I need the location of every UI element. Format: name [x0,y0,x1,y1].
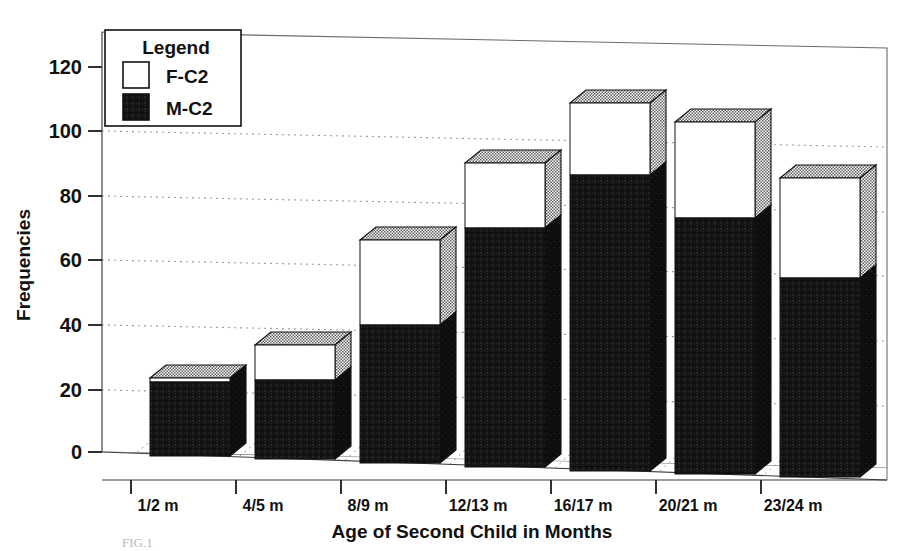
bar-7-male-front [780,278,860,477]
y-axis: 120 100 80 60 40 20 0 Frequencies [13,32,102,463]
legend-swatch-male[interactable] [123,94,149,120]
y-tick-label-60: 60 [60,249,82,271]
y-tick-label-100: 100 [49,120,82,142]
bar-1-female-front [150,378,230,382]
y-tick-label-0: 0 [71,441,82,463]
figure-container: 120 100 80 60 40 20 0 Frequencies [0,0,913,551]
legend[interactable]: Legend F-C2 M-C2 [105,30,241,126]
x-axis-title: Age of Second Child in Months [332,521,613,542]
bar-group-3[interactable] [360,227,456,463]
bar-2-female-front [255,345,335,380]
bar-6-female-front [675,122,755,218]
bar-3-side-face-female [440,227,456,325]
bar-chart-3d: 120 100 80 60 40 20 0 Frequencies [0,0,913,551]
x-tick-label-3: 8/9 m [348,497,389,514]
y-tick-label-80: 80 [60,185,82,207]
x-tick-label-5: 16/17 m [554,497,613,514]
y-tick-label-120: 120 [49,56,82,78]
bar-5-female-front [570,103,650,175]
bar-2-male-front [255,380,335,459]
x-tick-label-7: 23/24 m [764,497,823,514]
bar-group-1[interactable] [150,365,246,456]
bar-5-male-front [570,175,650,471]
bar-1-side-face [230,365,246,456]
bar-6-side-face-male [755,205,771,474]
bar-6-male-front [675,218,755,474]
bar-5-side-face-female [650,90,666,175]
bar-5-side-face-male [650,162,666,471]
x-tick-label-6: 20/21 m [659,497,718,514]
y-axis-title: Frequencies [13,209,34,321]
bar-7-female-front [780,178,860,278]
bar-3-side-face-male [440,312,456,463]
legend-title: Legend [142,37,210,58]
bar-group-2[interactable] [255,332,351,459]
bar-2-side-face-male [335,367,351,459]
bar-group-4[interactable] [465,150,561,467]
legend-label-female: F-C2 [166,66,208,87]
legend-swatch-female[interactable] [123,62,149,88]
bar-1-male-front [150,382,230,456]
legend-label-male: M-C2 [166,98,212,119]
bar-4-female-front [465,163,545,228]
x-tick-label-4: 12/13 m [449,497,508,514]
bar-group-7[interactable] [780,165,876,477]
bar-3-female-front [360,240,440,325]
bar-6-side-face-female [755,109,771,218]
bar-7-side-face-male [860,265,876,477]
bar-3-male-front [360,325,440,463]
bar-group-6[interactable] [675,109,771,474]
bar-group-5[interactable] [570,90,666,471]
x-tick-label-1: 1/2 m [138,497,179,514]
bar-4-male-front [465,228,545,467]
bar-4-side-face-male [545,215,561,467]
y-tick-label-40: 40 [60,314,82,336]
y-tick-label-20: 20 [60,379,82,401]
x-axis: 1/2 m 4/5 m 8/9 m 12/13 m 16/17 m 20/21 … [102,480,887,542]
figure-caption: FIG.1 [122,535,153,550]
bar-7-side-face-female [860,165,876,278]
x-tick-label-2: 4/5 m [243,497,284,514]
